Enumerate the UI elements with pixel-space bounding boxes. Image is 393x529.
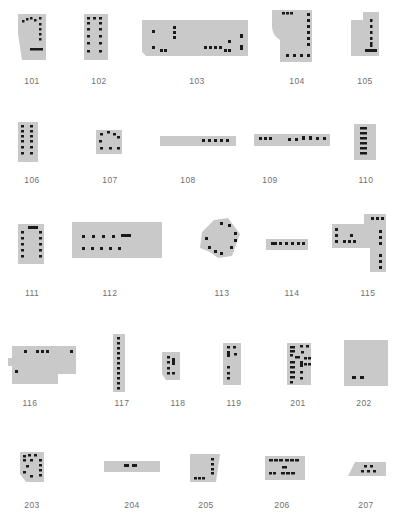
plan-mark [353,240,356,243]
plan-mark [117,357,120,360]
plan-shape-113 [194,212,250,270]
plan-shape-111 [10,218,54,270]
plan-mark [227,351,230,357]
plan-mark [198,477,201,480]
plan-fragment-203 [14,448,56,490]
plan-mark [220,252,223,255]
plan-shape-101 [6,8,58,66]
plan-mark [290,350,295,353]
plan-fragment-202 [340,338,392,388]
plan-mark [39,17,42,20]
plan-mark [316,137,319,140]
plan-mark [300,345,303,348]
plan-fragment-206 [262,452,310,486]
plan-mark [370,37,373,40]
plan-label-117: 117 [96,398,148,408]
plan-mark [290,354,293,357]
plan-mark [211,468,214,471]
plan-mark [295,138,298,141]
plan-mark [335,240,338,243]
plan-mark [87,22,90,25]
plan-mark [308,363,311,366]
plan-mark [306,345,309,348]
plan-mark [360,127,367,130]
plan-fragment-116 [6,340,88,392]
plan-mark [30,475,33,478]
plan-mark [30,48,43,51]
plan-mark [34,19,37,22]
plan-mark [373,470,376,473]
plan-mark [152,46,155,49]
plan-mark [21,152,24,155]
plan-mark [26,465,29,468]
plan-mark [30,152,33,155]
plan-mark [230,246,233,249]
plan-mark [87,17,90,20]
plan-mark [234,239,237,242]
plan-mark [107,131,110,134]
plan-mark [30,140,33,143]
plan-mark [302,242,305,245]
plan-shape-106 [8,118,56,166]
plan-mark [15,370,18,373]
plan-mark [99,50,102,53]
plan-mark [290,346,295,349]
plan-mark [335,234,338,237]
plan-mark [290,12,293,15]
plan-outline-115 [332,214,386,272]
plan-mark [109,147,112,150]
plan-mark [360,152,367,155]
plan-label-114: 114 [266,288,318,298]
plan-mark [360,376,364,379]
plan-mark [379,236,382,239]
plan-mark [307,54,310,57]
plan-mark [233,346,236,349]
plan-mark [28,226,38,229]
plan-mark [202,139,205,142]
plan-mark [301,351,304,354]
plan-mark [379,230,382,233]
plan-mark [87,42,90,45]
plan-fragment-205 [186,450,228,490]
plan-label-203: 203 [6,500,58,510]
plan-fragment-118 [158,348,190,388]
plan-label-204: 204 [106,500,158,510]
plan-shape-202 [340,338,392,388]
plan-mark [92,235,95,238]
plan-shape-110 [348,120,388,164]
plan-label-110: 110 [340,175,392,185]
plan-mark [297,242,300,245]
plan-mark [290,459,294,462]
plan-mark [91,247,94,250]
plan-mark [226,139,229,142]
plan-mark [307,31,310,34]
plan-mark [227,377,230,380]
plan-mark [211,463,214,466]
plan-mark [259,137,262,140]
plan-fragment-110 [348,120,388,164]
plan-label-107: 107 [84,175,136,185]
plan-shape-204 [100,456,166,480]
plan-mark [364,465,367,468]
plan-mark [228,224,231,227]
plan-mark [204,46,207,49]
plan-mark [365,49,377,52]
plan-mark [279,242,282,245]
plan-mark [39,23,42,26]
plan-mark [117,367,120,370]
plan-mark [381,217,384,220]
plan-mark [205,237,208,240]
plan-mark [291,472,295,475]
plan-mark [227,366,230,369]
plan-mark [132,464,137,467]
plan-mark [152,30,155,33]
plan-mark [360,132,367,135]
plan-mark [117,387,120,390]
plan-shape-102 [74,8,124,66]
plan-mark [194,477,197,480]
plan-outline-119 [223,343,241,385]
plan-shape-206 [262,452,310,486]
plan-mark [214,250,217,253]
plan-mark [302,136,305,140]
plan-mark [23,459,26,462]
